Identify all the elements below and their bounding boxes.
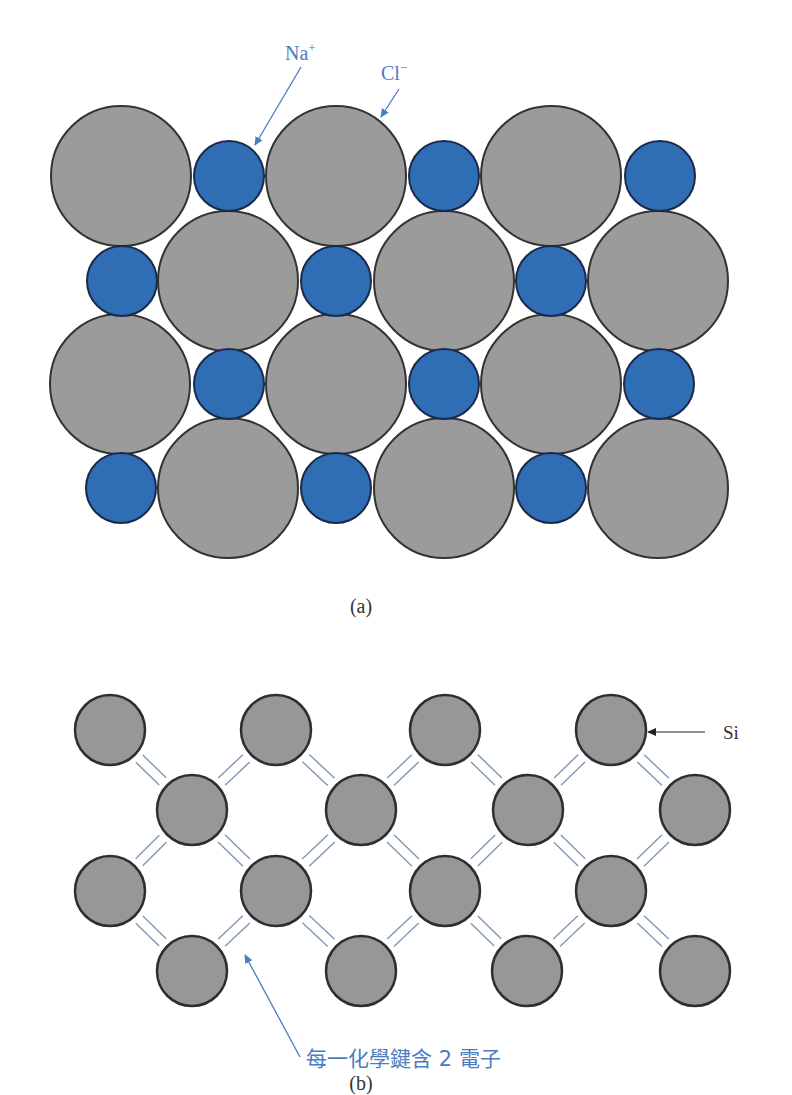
chloride-ion <box>588 418 728 558</box>
sodium-ion <box>624 349 694 419</box>
sodium-ion <box>301 246 371 316</box>
covalent-bond-line <box>554 755 578 778</box>
silicon-atom <box>241 695 311 765</box>
covalent-bond-line <box>637 923 662 946</box>
sodium-ion <box>194 141 264 211</box>
covalent-bond-line <box>394 835 419 859</box>
silicon-atom <box>157 936 227 1006</box>
covalent-bond-line <box>225 923 250 946</box>
silicon-atom <box>660 936 730 1006</box>
cl-ion-label: Cl− <box>381 60 407 84</box>
sodium-ion <box>301 453 371 523</box>
covalent-bond-line <box>637 835 662 859</box>
covalent-bond-line <box>560 923 585 946</box>
covalent-bond-line <box>225 762 250 785</box>
covalent-bond-line <box>471 835 495 859</box>
chloride-ion <box>158 211 298 351</box>
silicon-atom <box>326 936 396 1006</box>
bond-arrow <box>245 955 300 1057</box>
silicon-atom <box>492 936 562 1006</box>
chloride-ion <box>374 418 514 558</box>
chloride-ion <box>481 106 621 246</box>
sodium-ion <box>409 141 479 211</box>
covalent-bond-line <box>644 916 669 939</box>
covalent-bond-line <box>143 916 166 939</box>
covalent-bond-line <box>136 923 159 946</box>
covalent-bond-line <box>143 842 167 865</box>
silicon-atom <box>75 856 145 926</box>
silicon-atom <box>493 775 563 845</box>
chloride-ion <box>481 314 621 454</box>
covalent-bond-line <box>309 842 335 866</box>
covalent-bond-line <box>478 916 501 939</box>
covalent-bond-line <box>553 916 578 939</box>
covalent-bond-line <box>218 755 243 778</box>
covalent-bond-line <box>637 762 662 785</box>
covalent-bond-line <box>561 762 585 785</box>
chloride-ion <box>588 211 728 351</box>
covalent-bond-line <box>387 842 412 866</box>
caption-a: (a) <box>350 595 372 618</box>
silicon-atom <box>660 775 730 845</box>
chloride-ion <box>266 106 406 246</box>
sodium-ion <box>86 453 156 523</box>
cl-ion-annotation: Cl− <box>381 60 407 117</box>
silicon-atom <box>241 856 311 926</box>
silicon-atom <box>576 856 646 926</box>
covalent-bond-line <box>394 923 419 946</box>
covalent-bond-line <box>309 915 334 939</box>
sodium-ion <box>516 453 586 523</box>
covalent-bond-line <box>136 762 159 785</box>
si-label: Si <box>723 722 739 743</box>
covalent-bond-line <box>225 835 250 859</box>
covalent-bond-line <box>561 835 585 859</box>
chloride-ion <box>374 211 514 351</box>
chloride-ion <box>266 314 406 454</box>
covalent-bond-line <box>218 842 243 866</box>
si-covalent-lattice <box>75 695 730 1006</box>
covalent-bond-line <box>218 916 243 939</box>
silicon-atom <box>75 695 145 765</box>
covalent-bond-line <box>302 923 327 947</box>
chloride-ion <box>158 418 298 558</box>
silicon-atom <box>410 695 480 765</box>
bond-caption: 每一化學鍵含 2 電子 <box>306 1047 501 1071</box>
na-ion-label: Na+ <box>285 40 316 64</box>
crystal-structure-figure: Na+ Cl− (a) Si 每一化學鍵含 2 電子 (b) <box>0 0 792 1095</box>
covalent-bond-line <box>387 755 412 778</box>
covalent-bond-line <box>394 762 419 785</box>
silicon-atom <box>576 695 646 765</box>
sodium-ion <box>409 349 479 419</box>
silicon-atom <box>410 856 480 926</box>
cl-ion-arrow <box>381 89 399 117</box>
sodium-ion <box>516 246 586 316</box>
chloride-ion <box>51 106 191 246</box>
nacl-ionic-lattice <box>50 106 728 558</box>
covalent-bond-line <box>387 916 412 939</box>
covalent-bond-line <box>302 835 328 859</box>
sodium-ion <box>194 349 264 419</box>
chloride-ion <box>50 314 190 454</box>
si-annotation: Si <box>648 722 739 743</box>
caption-b: (b) <box>349 1072 372 1095</box>
silicon-atom <box>157 775 227 845</box>
sodium-ion <box>625 141 695 211</box>
covalent-bond-line <box>554 842 578 866</box>
covalent-bond-line <box>309 754 334 778</box>
covalent-bond-line <box>302 762 327 786</box>
covalent-bond-line <box>143 755 166 778</box>
covalent-bond-line <box>136 835 160 858</box>
covalent-bond-line <box>471 923 494 946</box>
silicon-atom <box>326 775 396 845</box>
covalent-bond-line <box>644 755 669 778</box>
covalent-bond-line <box>644 842 669 866</box>
covalent-bond-line <box>478 755 502 778</box>
covalent-bond-line <box>471 762 495 785</box>
covalent-bond-line <box>478 842 502 866</box>
sodium-ion <box>87 246 157 316</box>
